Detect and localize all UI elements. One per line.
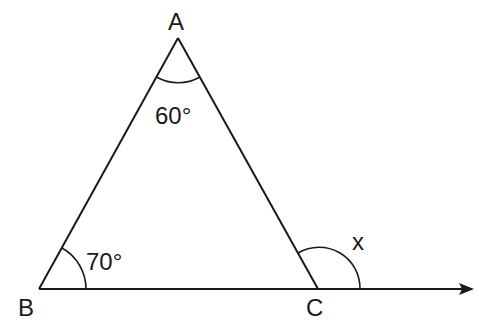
angle-label-b: 70° <box>86 248 122 275</box>
vertex-label-b: B <box>18 294 34 321</box>
angle-label-exterior-c: x <box>352 228 364 255</box>
angle-arc-b <box>62 248 86 289</box>
vertex-label-c: C <box>306 294 323 321</box>
angle-arc-a <box>157 77 201 83</box>
triangle-diagram: A B C 60° 70° x <box>0 0 479 332</box>
angle-label-a: 60° <box>155 102 191 129</box>
vertex-label-a: A <box>168 8 184 35</box>
side-ac <box>178 38 318 289</box>
